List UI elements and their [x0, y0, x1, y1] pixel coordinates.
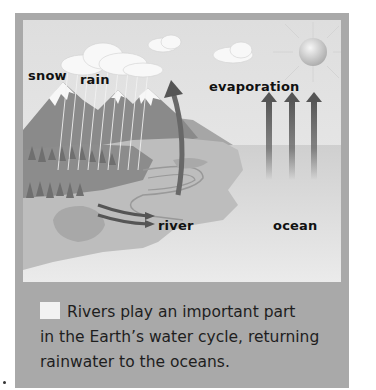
label-rain: rain	[80, 72, 110, 87]
caption-line-3: rainwater to the oceans.	[40, 350, 344, 375]
caption-marker	[40, 302, 60, 319]
label-snow: snow	[28, 68, 67, 83]
label-river: river	[158, 218, 194, 233]
up-arrow-icon	[261, 92, 322, 180]
label-evaporation: evaporation	[209, 79, 300, 94]
caption-line-2: in the Earth’s water cycle, returning	[40, 325, 344, 350]
page-mark	[3, 381, 6, 384]
caption-line-1: Rivers play an important part	[67, 303, 295, 321]
label-ocean: ocean	[273, 218, 317, 233]
water-cycle-illustration: snow rain evaporation river ocean	[23, 20, 341, 282]
figure-caption: Rivers play an important part in the Ear…	[24, 300, 344, 375]
